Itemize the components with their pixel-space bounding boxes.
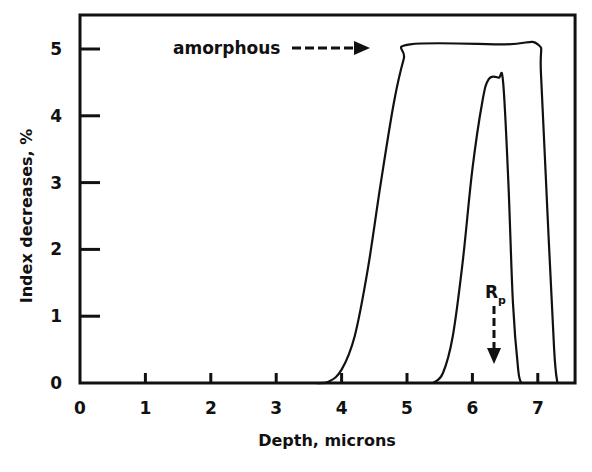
x-tick-label: 2 <box>205 398 217 418</box>
plot-frame <box>80 15 575 383</box>
y-tick-label: 1 <box>50 306 62 326</box>
rp-arrow-icon <box>487 306 501 364</box>
amorphous-arrow-icon <box>292 41 370 55</box>
y-tick-label: 5 <box>50 39 62 59</box>
amorphous-label: amorphous <box>173 38 280 58</box>
series-line <box>433 73 521 383</box>
x-tick-label: 7 <box>532 398 544 418</box>
y-tick-label: 0 <box>50 373 62 393</box>
y-tick-label: 4 <box>50 106 62 126</box>
y-tick-label: 3 <box>50 173 62 193</box>
y-tick-label: 2 <box>50 239 62 259</box>
axis-ticks: 01234567012345 <box>50 39 544 418</box>
y-axis-title: Index decreases, % <box>17 129 36 303</box>
x-axis-title: Depth, microns <box>258 431 396 450</box>
x-tick-label: 1 <box>139 398 151 418</box>
data-curves <box>315 42 557 383</box>
x-tick-label: 3 <box>270 398 282 418</box>
series-line <box>315 42 557 383</box>
rp-label: Rp <box>485 282 506 307</box>
chart: 01234567012345 amorphous Rp Depth, micro… <box>0 0 592 472</box>
x-tick-label: 5 <box>401 398 413 418</box>
x-tick-label: 6 <box>466 398 478 418</box>
x-tick-label: 4 <box>336 398 348 418</box>
x-tick-label: 0 <box>74 398 86 418</box>
